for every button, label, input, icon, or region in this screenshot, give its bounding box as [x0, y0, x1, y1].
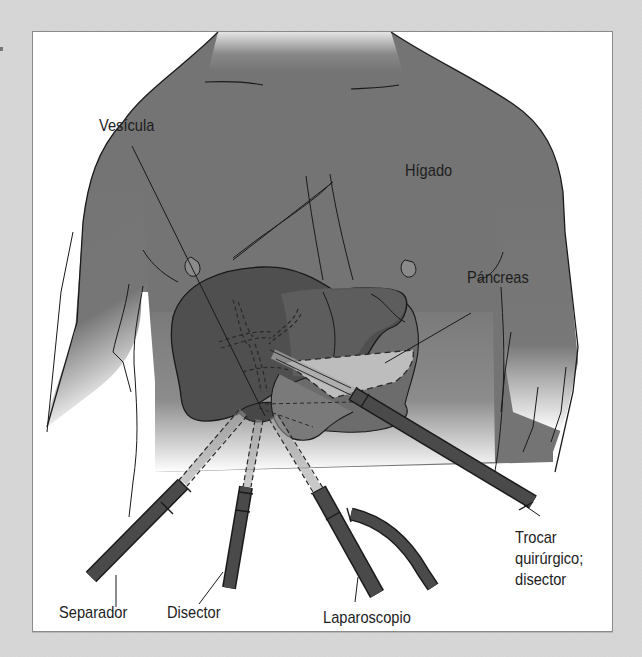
- instrument-laparoscopio: [311, 486, 433, 594]
- label-trocar-line1: Trocar: [515, 527, 610, 548]
- label-laparoscopio: Laparoscopio: [323, 607, 411, 628]
- label-trocar-line3: disector: [515, 569, 610, 590]
- label-trocar-line2: quirúrgico;: [515, 548, 610, 569]
- label-trocar: Trocar quirúrgico; disector: [515, 527, 610, 590]
- instrument-disector: [229, 487, 253, 588]
- label-disector: Disector: [167, 602, 221, 623]
- edge-mark: [0, 47, 3, 51]
- label-higado: Hígado: [405, 160, 452, 181]
- label-separador: Separador: [59, 602, 127, 623]
- label-vesicula: Vesícula: [99, 115, 154, 136]
- label-pancreas: Páncreas: [467, 267, 529, 288]
- illustration-frame: Vesícula Hígado Páncreas Separador Disec…: [32, 31, 613, 632]
